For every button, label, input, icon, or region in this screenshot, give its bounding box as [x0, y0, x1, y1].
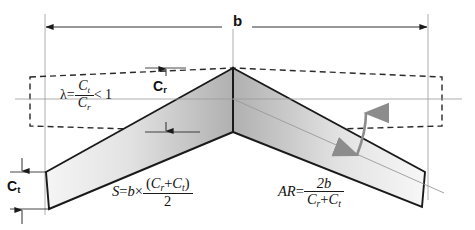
wing-planform-diagram: b Cr Ct λ=CtCr< 1 S=b×(Cr+Ct)2 AR=2bCr+C…	[0, 0, 475, 230]
span-label-b: b	[228, 12, 247, 29]
taper-comparison: < 1	[94, 87, 112, 102]
root-chord-subscript: r	[163, 84, 167, 95]
area-span: b	[127, 183, 134, 199]
taper-fraction: CtCr	[75, 79, 94, 113]
area-fraction: (Cr+Ct)2	[143, 176, 193, 209]
taper-ratio-formula: λ=CtCr< 1	[60, 79, 112, 113]
ar-fraction: 2bCr+Ct	[304, 176, 344, 209]
tip-chord-label: Ct	[6, 178, 21, 195]
ar-symbol: AR	[278, 183, 296, 199]
wing-area-formula: S=b×(Cr+Ct)2	[112, 176, 193, 209]
wing-diagram-svg	[0, 0, 475, 230]
root-chord-label: Cr	[152, 78, 168, 95]
area-times: ×	[135, 183, 143, 199]
ar-equals: =	[296, 183, 304, 199]
lambda-symbol: λ	[60, 87, 67, 102]
tip-chord-subscript: t	[17, 184, 20, 195]
aspect-ratio-formula: AR=2bCr+Ct	[278, 176, 344, 209]
taper-equals: =	[67, 87, 75, 102]
